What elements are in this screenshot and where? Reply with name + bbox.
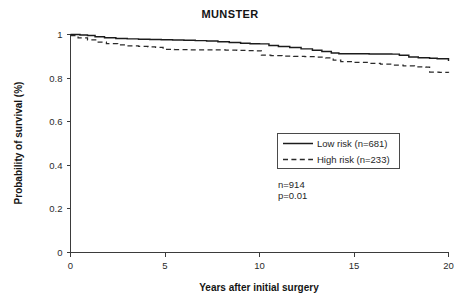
y-tick-label: 0 bbox=[57, 247, 62, 258]
kaplan-meier-plot: MUNSTER 00.20.40.60.81 05101520 Probabil… bbox=[0, 0, 473, 302]
y-axis-title: Probability of survival (%) bbox=[13, 82, 24, 205]
y-tick-label: 0.4 bbox=[49, 160, 62, 171]
annotation-p-value: p=0.01 bbox=[278, 190, 307, 201]
x-axis-title: Years after initial surgery bbox=[199, 282, 319, 293]
y-tick-label: 1 bbox=[57, 29, 62, 40]
x-tick-label: 0 bbox=[68, 260, 73, 271]
chart-title: MUNSTER bbox=[201, 8, 258, 20]
statistics-annotations: n=914 p=0.01 bbox=[278, 179, 307, 201]
x-tick-label: 5 bbox=[162, 260, 167, 271]
y-tick-label: 0.6 bbox=[49, 116, 62, 127]
y-tick-label: 0.2 bbox=[49, 203, 62, 214]
x-tick-label: 15 bbox=[349, 260, 360, 271]
y-tick-label: 0.8 bbox=[49, 73, 62, 84]
legend-label-low-risk: Low risk (n=681) bbox=[317, 138, 388, 149]
x-tick-label: 10 bbox=[254, 260, 265, 271]
legend[interactable]: Low risk (n=681) High risk (n=233) bbox=[278, 134, 400, 169]
legend-label-high-risk: High risk (n=233) bbox=[317, 154, 390, 165]
x-tick-label: 20 bbox=[443, 260, 454, 271]
survival-chart-figure: MUNSTER 00.20.40.60.81 05101520 Probabil… bbox=[0, 0, 473, 302]
annotation-total-n: n=914 bbox=[278, 179, 305, 190]
